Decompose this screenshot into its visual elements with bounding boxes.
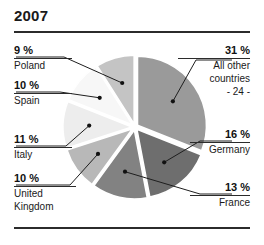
leader-dot [123, 170, 127, 174]
callout-italy: 11 % Italy [14, 133, 72, 161]
callout-label: Italy [14, 149, 72, 161]
callout-percent: 9 % [14, 44, 72, 57]
callout-france: 13 % France [190, 181, 250, 209]
callout-germany: 16 % Germany [190, 128, 250, 156]
callout-label: Germany [190, 144, 250, 156]
pie-chart-figure: 2007 31 % All other countries - 24 - 16 … [0, 0, 264, 245]
callout-label-line1: All other [178, 60, 250, 72]
callout-percent: 31 % [178, 44, 250, 57]
callout-label-line3: - 24 - [178, 86, 250, 98]
callout-underline [14, 93, 72, 94]
leader-dot [98, 96, 102, 100]
callout-spain: 10 % Spain [14, 79, 72, 107]
callout-percent: 10 % [14, 172, 76, 185]
callout-underline [14, 147, 72, 148]
callout-percent: 13 % [190, 181, 250, 194]
callout-poland: 9 % Poland [14, 44, 72, 72]
callout-label-line2: Kingdom [14, 201, 76, 213]
footer-divider [14, 227, 250, 229]
callout-label: Spain [14, 95, 72, 107]
callout-percent: 10 % [14, 79, 72, 92]
leader-dot [162, 160, 166, 164]
callout-all-other-countries: 31 % All other countries - 24 - [178, 44, 250, 98]
callout-percent: 16 % [190, 128, 250, 141]
callout-percent: 11 % [14, 133, 72, 146]
callout-label: France [190, 197, 250, 209]
leader-dot [87, 124, 91, 128]
callout-underline [14, 186, 76, 187]
leader-dot [96, 152, 100, 156]
callout-underline [190, 142, 250, 143]
leader-dot [171, 99, 175, 103]
callout-underline [14, 58, 72, 59]
callout-underline [178, 58, 250, 59]
leader-dot [120, 81, 124, 85]
callout-united-kingdom: 10 % United Kingdom [14, 172, 76, 213]
callout-label: Poland [14, 60, 72, 72]
callout-underline [190, 195, 250, 196]
callout-label-line2: countries [178, 73, 250, 85]
callout-label-line1: United [14, 188, 76, 200]
